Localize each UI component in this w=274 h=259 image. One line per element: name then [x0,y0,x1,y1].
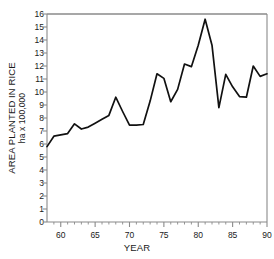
axis-tick-marks [43,14,267,227]
rice-area-line-chart: AREA PLANTED IN RICE ha x 100,000 012345… [0,0,274,259]
x-axis-title: YEAR [0,242,274,253]
plot-area [0,0,274,259]
data-line-series [47,19,267,146]
axis-frame [47,14,267,222]
